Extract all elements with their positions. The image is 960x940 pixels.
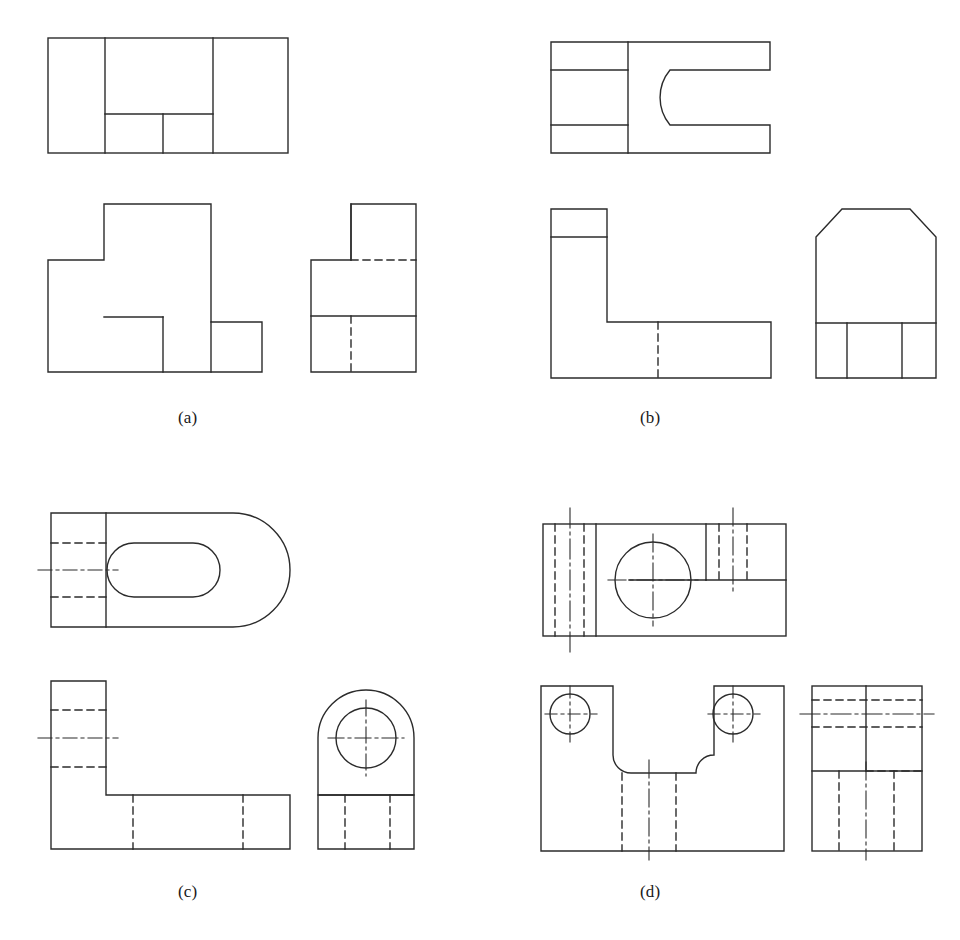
panel-label-c: (c) [178, 882, 197, 902]
panel-c-side-view [318, 690, 414, 849]
panel-b-side-view [816, 209, 936, 378]
panel-c-front-view [38, 681, 290, 849]
panel-label-a: (a) [178, 408, 197, 428]
panel-b-front-view [551, 209, 771, 378]
panel-label-b: (b) [640, 408, 660, 428]
panel-d-side-view [800, 686, 934, 860]
panel-c-top-view [38, 513, 290, 627]
panel-a-top-view [48, 38, 288, 153]
panel-d-front-view [541, 686, 784, 860]
panel-a-front-view [48, 204, 262, 372]
drawing-sheet: (a) (b) (c) (d) [0, 0, 960, 940]
panel-b-top-view [551, 42, 770, 153]
panel-d-top-view [543, 508, 786, 652]
panel-a-side-view [311, 204, 416, 372]
panel-label-d: (d) [640, 882, 660, 902]
multiview-drawing-canvas [0, 0, 960, 940]
